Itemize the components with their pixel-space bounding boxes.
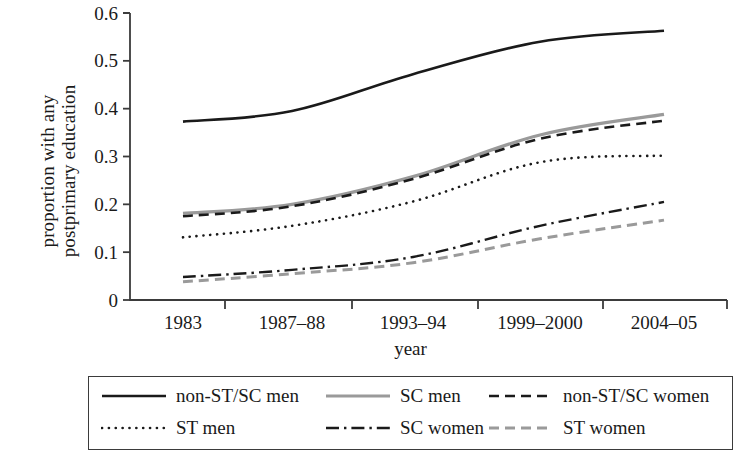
legend-label: ST men xyxy=(176,417,235,439)
legend-swatch-non-st-sc-men xyxy=(101,389,167,403)
legend-item-st-women: ST women xyxy=(488,413,646,443)
legend-swatch-sc-men xyxy=(325,389,391,403)
legend-item-sc-men: SC men xyxy=(325,381,461,411)
legend-label: non-ST/SC men xyxy=(176,385,299,407)
legend-swatch-sc-women xyxy=(325,421,391,435)
x-tick-label: 1999–2000 xyxy=(497,312,583,334)
legend-label: ST women xyxy=(563,417,646,439)
series-line-st-women xyxy=(183,220,664,282)
series-line-non-st-sc-men xyxy=(183,31,664,122)
x-tick-label: 2004–05 xyxy=(631,312,698,334)
legend-label: SC men xyxy=(400,385,461,407)
series-line-st-men xyxy=(183,156,664,238)
plot-area xyxy=(0,0,741,320)
legend-swatch-non-st-sc-women xyxy=(488,389,554,403)
legend-item-st-men: ST men xyxy=(101,413,235,443)
x-axis-title: year xyxy=(0,338,741,360)
x-tick-label: 1987–88 xyxy=(259,312,326,334)
legend-row: non-ST/SC men SC men non-ST/SC women xyxy=(89,381,732,414)
legend-item-non-st-sc-women: non-ST/SC women xyxy=(488,381,709,411)
legend-item-sc-women: SC women xyxy=(325,413,484,443)
series-line-non-st-sc-women xyxy=(183,121,664,217)
legend-swatch-st-men xyxy=(101,421,167,435)
series-line-sc-women xyxy=(183,202,664,277)
legend-row: ST men SC women ST women xyxy=(89,413,732,446)
x-tick-label: 1983 xyxy=(164,312,202,334)
legend-label: SC women xyxy=(400,417,484,439)
chart-legend: non-ST/SC men SC men non-ST/SC women ST … xyxy=(88,376,733,450)
chart-figure: proportion with any postprimary educatio… xyxy=(0,0,741,460)
legend-label: non-ST/SC women xyxy=(563,385,709,407)
x-axis-title-text: year xyxy=(394,338,427,359)
legend-item-non-st-sc-men: non-ST/SC men xyxy=(101,381,299,411)
legend-swatch-st-women xyxy=(488,421,554,435)
x-tick-label: 1993–94 xyxy=(380,312,447,334)
